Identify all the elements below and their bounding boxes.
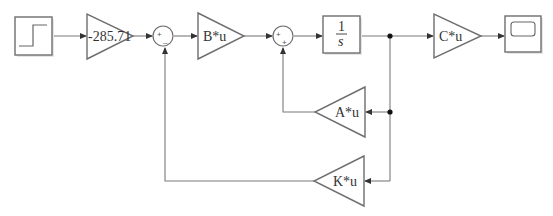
integrator-block[interactable]: 1 s: [323, 16, 362, 55]
sum1-sign-plus: +: [157, 30, 162, 39]
gain-c-label: C*u: [439, 29, 462, 44]
gain-k-label: K*u: [333, 174, 357, 189]
integrator-numerator: 1: [338, 19, 345, 34]
gain-a-block[interactable]: A*u: [315, 87, 365, 137]
gain-b-label: B*u: [203, 29, 226, 44]
gain-c-block[interactable]: C*u: [434, 14, 481, 58]
gain-input-block[interactable]: -285.71: [87, 14, 133, 59]
junction-dot-top: [387, 33, 392, 38]
sum2-sign-plus-bottom: +: [282, 38, 287, 47]
gain-b-block[interactable]: B*u: [198, 13, 244, 59]
wire-gaink-to-sum1[interactable]: [165, 48, 314, 181]
scope-screen-icon: [511, 22, 535, 36]
step-block[interactable]: [15, 17, 54, 57]
junction-dot-mid: [387, 109, 392, 114]
sum2-block[interactable]: + +: [273, 26, 293, 47]
scope-block[interactable]: [505, 16, 543, 54]
gain-k-block[interactable]: K*u: [314, 156, 364, 206]
sum2-sign-plus-left: +: [276, 30, 281, 39]
gain-a-label: A*u: [335, 105, 359, 120]
gain-input-label: -285.71: [88, 29, 131, 44]
wire-gaina-to-sum2[interactable]: [283, 48, 315, 112]
sum1-sign-minus: –: [163, 38, 168, 47]
sum1-block[interactable]: + –: [153, 26, 173, 47]
integrator-denominator: s: [338, 34, 344, 49]
block-diagram-canvas: -285.71 + – B*u + + 1 s C*u A*u: [0, 0, 553, 216]
